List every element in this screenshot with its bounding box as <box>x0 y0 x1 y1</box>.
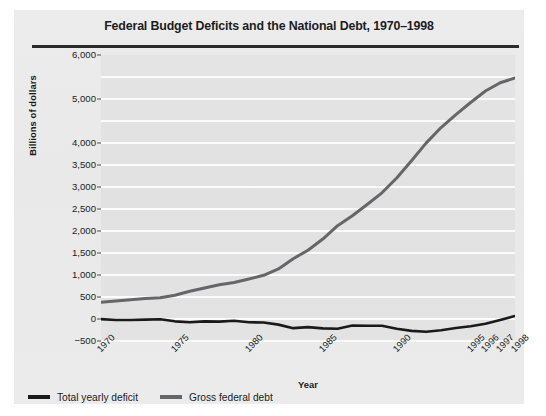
y-axis-tick-mark <box>97 54 101 55</box>
y-axis-tick-mark <box>97 318 101 319</box>
line-gross-federal-debt <box>101 78 515 302</box>
y-axis-tick-label: 5,000 <box>36 93 96 104</box>
line-total-yearly-deficit <box>101 316 515 332</box>
x-axis-tick-label: 1970 <box>95 332 117 354</box>
legend-label: Total yearly deficit <box>57 392 138 403</box>
y-axis-tick-label: 3,000 <box>36 181 96 192</box>
y-axis-tick-mark <box>97 164 101 165</box>
legend-label: Gross federal debt <box>189 392 273 403</box>
y-axis-tick-label: 2,500 <box>36 203 96 214</box>
legend-swatch-icon <box>28 395 50 398</box>
y-axis-tick-label: 6,000 <box>36 49 96 60</box>
chart-legend: Total yearly deficit Gross federal debt <box>28 386 273 408</box>
y-axis-tick-label: 0 <box>36 313 96 324</box>
series-layer <box>101 55 515 341</box>
legend-swatch-icon <box>160 395 182 398</box>
y-axis-tick-mark <box>97 208 101 209</box>
y-axis-tick-label: 2,000 <box>36 225 96 236</box>
y-axis-tick-mark <box>97 274 101 275</box>
y-axis-tick-label: −500 <box>36 335 96 346</box>
y-axis-tick-label: 500 <box>36 291 96 302</box>
chart-title: Federal Budget Deficits and the National… <box>14 19 524 33</box>
y-axis-tick-label: 3,500 <box>36 159 96 170</box>
title-divider-rule <box>32 45 519 48</box>
chart-figure: Federal Budget Deficits and the National… <box>14 10 524 404</box>
y-axis-tick-label: 4,000 <box>36 137 96 148</box>
y-axis-tick-mark <box>97 252 101 253</box>
y-axis-tick-mark <box>97 98 101 99</box>
legend-item-total-yearly-deficit: Total yearly deficit <box>28 392 138 403</box>
y-axis-tick-mark <box>97 142 101 143</box>
y-axis-tick-label: 1,500 <box>36 247 96 258</box>
chart-title-block: Federal Budget Deficits and the National… <box>14 10 524 44</box>
legend-item-gross-federal-debt: Gross federal debt <box>160 392 273 403</box>
y-axis-tick-mark <box>97 230 101 231</box>
y-axis-tick-mark <box>97 296 101 297</box>
y-axis-tick-label: 1,000 <box>36 269 96 280</box>
y-axis-tick-mark <box>97 186 101 187</box>
